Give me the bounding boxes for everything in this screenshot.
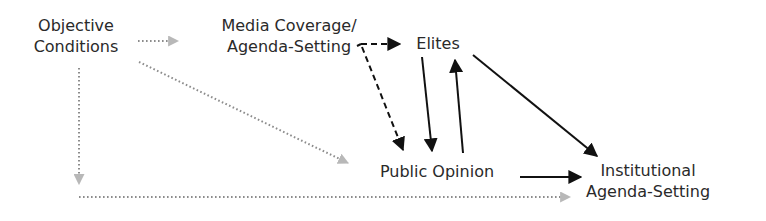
edge-elites-to-institutional [473,55,597,156]
node-objective-conditions: Objective Conditions [34,15,119,57]
node-media-coverage-line1: Media Coverage/ [221,15,356,36]
node-media-coverage-line2: Agenda-Setting [221,36,356,57]
node-institutional-agenda-setting: Institutional Agenda-Setting [586,160,710,202]
edge-media-to-public-opinion [357,44,403,150]
node-institutional-line1: Institutional [586,160,710,181]
agenda-setting-diagram: Objective Conditions Media Coverage/ Age… [0,0,766,221]
node-objective-conditions-line2: Conditions [34,36,119,57]
node-public-opinion-label: Public Opinion [380,161,494,182]
edge-objective-to-public-opinion [139,62,348,163]
edge-elites-to-public-opinion [422,57,432,151]
edge-public-opinion-to-elites [455,60,463,153]
node-public-opinion: Public Opinion [380,161,494,182]
edge-objective-to-institutional [79,68,570,197]
node-objective-conditions-line1: Objective [34,15,119,36]
node-media-coverage: Media Coverage/ Agenda-Setting [221,15,356,57]
node-elites-label: Elites [416,33,459,54]
node-institutional-line2: Agenda-Setting [586,181,710,202]
node-elites: Elites [416,33,459,54]
